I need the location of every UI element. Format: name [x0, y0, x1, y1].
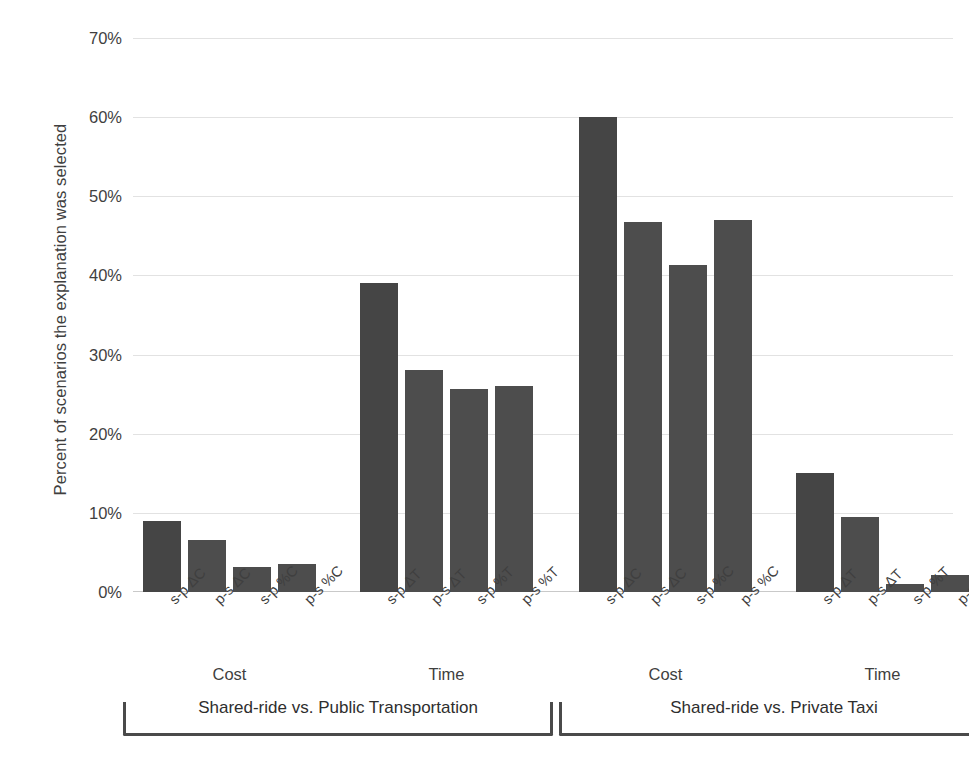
y-tick-label: 20% [62, 424, 122, 443]
gridline [133, 117, 953, 118]
bracket-line [559, 733, 969, 736]
group-label: Shared-ride vs. Private Taxi [559, 698, 969, 718]
subgroup-label: Cost [213, 665, 247, 684]
gridline [133, 355, 953, 356]
y-tick-label: 40% [62, 266, 122, 285]
group-bracket: Shared-ride vs. Public Transportation [123, 692, 553, 736]
y-axis-ticks: 0%10%20%30%40%50%60%70% [60, 38, 122, 592]
bar [360, 283, 398, 592]
bar [714, 220, 752, 592]
subgroup-label: Time [864, 665, 900, 684]
gridline [133, 38, 953, 39]
gridline [133, 275, 953, 276]
bar [579, 117, 617, 592]
y-tick-label: 60% [62, 108, 122, 127]
bar [450, 389, 488, 592]
bar [669, 265, 707, 592]
y-tick-label: 70% [62, 29, 122, 48]
bar [143, 521, 181, 592]
gridline [133, 434, 953, 435]
y-tick-label: 30% [62, 345, 122, 364]
y-tick-label: 50% [62, 187, 122, 206]
bar-chart: Percent of scenarios the explanation was… [0, 0, 969, 779]
gridline [133, 196, 953, 197]
bar [796, 473, 834, 593]
subgroup-label: Time [428, 665, 464, 684]
plot-area [133, 38, 953, 592]
subgroup-label: Cost [649, 665, 683, 684]
y-tick-label: 10% [62, 503, 122, 522]
group-label: Shared-ride vs. Public Transportation [123, 698, 553, 718]
group-bracket: Shared-ride vs. Private Taxi [559, 692, 969, 736]
bar [405, 370, 443, 592]
bracket-line [123, 733, 553, 736]
x-axis-ticks: s-p ΔCp-s ΔCs-p %Cp-s %Cs-p ΔTp-s ΔTs-p … [133, 596, 953, 666]
bar [624, 222, 662, 592]
y-tick-label: 0% [62, 583, 122, 602]
bar [495, 386, 533, 592]
